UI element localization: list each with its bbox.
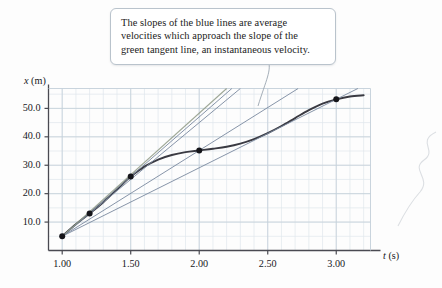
callout-line-2: velocities which approach the slope of t… [121, 29, 326, 42]
x-tick-label: 1.00 [42, 258, 82, 269]
callout-line-3: green tangent line, an instantaneous vel… [121, 43, 326, 56]
y-tick-label: 30.0 [7, 159, 41, 170]
callout-box: The slopes of the blue lines are average… [110, 8, 336, 65]
y-tick-label: 20.0 [7, 187, 41, 198]
y-axis-title: x (m) [24, 75, 46, 86]
grid-minor [49, 89, 371, 251]
x-tick-label: 3.00 [316, 258, 356, 269]
y-tick-label: 40.0 [7, 130, 41, 141]
y-tick-label: 50.0 [7, 102, 41, 113]
y-tick-label: 10.0 [7, 216, 41, 227]
x-tick-label: 2.50 [248, 258, 288, 269]
x-axis-title: t (s) [383, 250, 399, 261]
callout-line-1: The slopes of the blue lines are average [121, 16, 326, 29]
page-edge-squiggle [398, 132, 436, 226]
figure-container: The slopes of the blue lines are average… [0, 0, 442, 288]
x-tick-label: 1.50 [111, 258, 151, 269]
x-tick-label: 2.00 [179, 258, 219, 269]
